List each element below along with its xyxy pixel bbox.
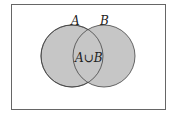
set-b-label: B: [99, 14, 109, 28]
union-label: A∪B: [74, 51, 103, 65]
venn-diagram: A B A∪B: [0, 0, 176, 116]
set-a-label: A: [70, 14, 80, 28]
